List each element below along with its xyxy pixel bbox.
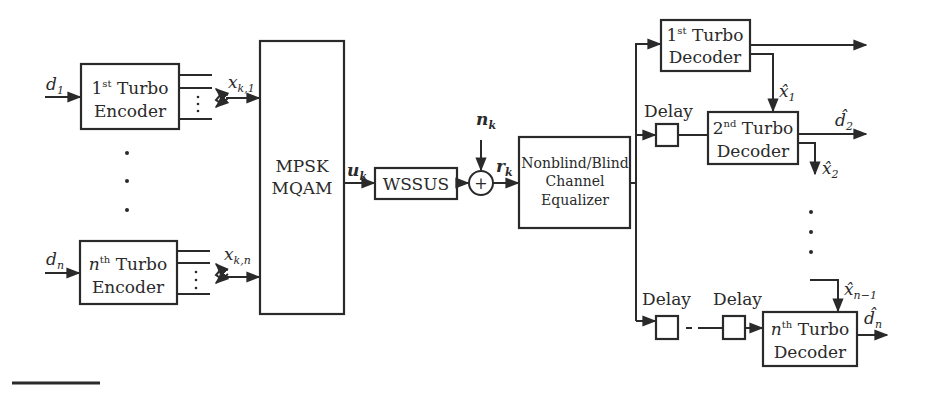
delay-label: Delay xyxy=(644,101,693,121)
equalizer-line-2: Channel xyxy=(546,173,605,189)
delay-box-icon xyxy=(656,124,678,146)
encoder-1-dot xyxy=(197,103,200,106)
output-xkn-label: xk,n xyxy=(224,244,251,267)
output-xk1-label: xk,1 xyxy=(228,72,255,95)
input-dn-label: dn xyxy=(46,249,64,272)
channel-group: WSSUS xyxy=(375,168,468,199)
turbo-decoder-n-subtitle: Decoder xyxy=(774,342,847,362)
x2-feedback-arrow xyxy=(798,143,815,174)
delay-box-icon xyxy=(723,316,745,339)
equalizer-line-1: Nonblind/Blind xyxy=(521,155,629,171)
noise-nk-label: nk xyxy=(476,109,496,132)
modulator-line-1: MPSK xyxy=(275,156,328,176)
decoder-1-group: 1st Turbo Decoder x̂1 xyxy=(661,20,866,111)
equalizer-line-3: Equalizer xyxy=(541,192,609,208)
decoder-2-group: Delay 2nd Turbo Decoder d̂2 x̂2 xyxy=(644,101,866,181)
modulator-group: MPSK MQAM uk xyxy=(260,41,374,314)
encoder-n-dot xyxy=(195,287,198,290)
adder-group: + nk rk xyxy=(469,109,518,195)
distribution-bus xyxy=(636,43,660,321)
xn-1-hat-label: x̂n−1 xyxy=(844,279,877,302)
rk-label: rk xyxy=(496,156,513,179)
turbo-encoder-1-subtitle: Encoder xyxy=(94,101,167,121)
wssus-label: WSSUS xyxy=(383,174,449,194)
x2-hat-label: x̂2 xyxy=(822,158,839,181)
turbo-decoder-2-subtitle: Decoder xyxy=(717,141,790,161)
x1-feedback-arrow xyxy=(750,54,773,111)
turbo-decoder-1-subtitle: Decoder xyxy=(669,47,742,67)
encoder-1-dot xyxy=(197,96,200,99)
xn-1-feedback-arrow xyxy=(810,280,838,311)
x1-hat-label: x̂1 xyxy=(779,81,796,104)
modulator-line-2: MQAM xyxy=(271,178,332,198)
encoder-n-dot xyxy=(195,271,198,274)
turbo-coded-transmission-diagram: d1 1st Turbo Encoder xk,1 dn nth Turbo E… xyxy=(0,0,930,395)
encoder-ellipsis xyxy=(125,151,129,212)
delay-label: Delay xyxy=(642,289,691,309)
encoder-1-dot xyxy=(197,110,200,113)
delay-box-icon xyxy=(656,316,678,339)
turbo-encoder-n-subtitle: Encoder xyxy=(92,277,165,297)
dn-hat-label: d̂n xyxy=(864,307,882,331)
delay-label: Delay xyxy=(713,289,762,309)
d2-hat-label: d̂2 xyxy=(835,109,853,133)
decoder-ellipsis xyxy=(809,210,813,254)
equalizer-group: Nonblind/Blind Channel Equalizer xyxy=(519,137,636,228)
uk-label: uk xyxy=(347,160,367,183)
input-d1-label: d1 xyxy=(46,74,64,97)
decoder-n-group: Delay Delay nth Turbo Decoder x̂n−1 d̂n xyxy=(642,279,887,366)
adder-plus-sign: + xyxy=(474,174,487,193)
encoder-n-dot xyxy=(195,279,198,282)
encoder-n-group: dn nth Turbo Encoder xk,n xyxy=(45,241,259,304)
encoder-1-group: d1 1st Turbo Encoder xk,1 xyxy=(45,64,259,129)
